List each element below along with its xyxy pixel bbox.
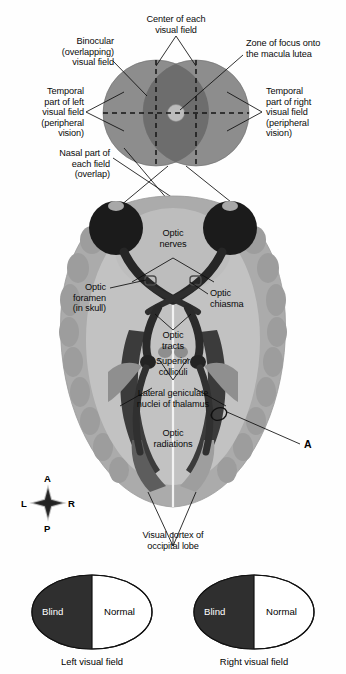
label-superior-colliculi: Superior colliculi bbox=[132, 356, 214, 377]
left-field-normal-label: Normal bbox=[104, 606, 135, 617]
right-field-blind-label: Blind bbox=[204, 606, 225, 617]
label-binocular-visual-field: Binocular (overlapping) visual field bbox=[18, 36, 114, 68]
label-nasal-part: Nasal part of each field (overlap) bbox=[6, 148, 110, 180]
compass-posterior-label: P bbox=[44, 523, 50, 534]
left-field-caption: Left visual field bbox=[32, 656, 152, 667]
label-optic-tracts: Optic tracts bbox=[140, 330, 206, 351]
label-optic-nerves: Optic nerves bbox=[136, 228, 210, 249]
label-optic-radiations: Optic radiations bbox=[140, 428, 206, 449]
right-eyeball bbox=[203, 201, 257, 255]
label-optic-chiasma: Optic chiasma bbox=[210, 288, 282, 309]
orientation-compass-star bbox=[33, 488, 63, 518]
label-optic-foramen: Optic foramen (in skull) bbox=[30, 282, 106, 314]
compass-anterior-label: A bbox=[44, 473, 51, 484]
label-zone-of-focus: Zone of focus onto the macula lutea bbox=[246, 38, 346, 59]
right-field-normal-label: Normal bbox=[266, 606, 297, 617]
left-field-blind-label: Blind bbox=[42, 606, 63, 617]
label-lateral-geniculate-nuclei: Lateral geniculate nuclei of thalamus bbox=[116, 388, 230, 409]
label-visual-cortex: Visual cortex of occipital lobe bbox=[116, 530, 230, 551]
label-temporal-part-left: Temporal part of left visual field (peri… bbox=[2, 86, 84, 139]
right-field-caption: Right visual field bbox=[194, 656, 314, 667]
left-eyeball bbox=[89, 201, 143, 255]
lesion-label-a: A bbox=[304, 438, 312, 450]
compass-right-label: R bbox=[68, 498, 75, 509]
label-center-of-each-visual-field: Center of each visual field bbox=[124, 14, 228, 35]
figure-root: Center of each visual field Binocular (o… bbox=[0, 0, 346, 674]
label-temporal-part-right: Temporal part of right visual field (per… bbox=[266, 86, 346, 139]
compass-left-label: L bbox=[21, 498, 27, 509]
